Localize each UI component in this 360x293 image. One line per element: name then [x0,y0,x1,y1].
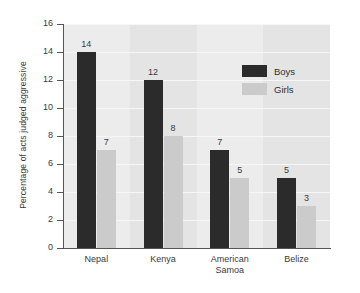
bar-girls-american-samoa [230,178,249,248]
legend-item-boys[interactable]: Boys [242,62,295,80]
y-axis-tick [57,80,63,81]
y-axis-tick [57,164,63,165]
y-axis-tick [57,24,63,25]
y-axis-tick [57,192,63,193]
y-axis-tick-label: 6 [13,158,53,168]
y-axis-tick-label: 2 [13,214,53,224]
y-axis-tick [57,136,63,137]
bar-chart: Percentage of acts judged aggressive 161… [0,0,360,293]
legend-swatch-girls-icon [242,83,267,95]
category-label-line: Belize [252,254,342,265]
plot-area [63,24,330,248]
x-axis-line [63,248,331,249]
bar-girls-belize [297,206,316,248]
y-axis-tick [57,108,63,109]
y-axis-tick-label: 12 [13,74,53,84]
y-axis-tick-label: 16 [13,18,53,28]
category-label-line: Samoa [185,265,275,276]
gridline [63,52,330,53]
bar-value-label: 5 [272,165,302,175]
y-axis-tick-label: 14 [13,46,53,56]
legend-item-girls[interactable]: Girls [242,80,295,98]
y-axis-tick [57,220,63,221]
bar-value-label: 7 [205,137,235,147]
y-axis-tick-label: 10 [13,102,53,112]
y-axis-tick [57,248,63,249]
bar-value-label: 8 [158,123,188,133]
bar-boys-belize [277,178,296,248]
y-axis-tick-label: 4 [13,186,53,196]
bar-girls-nepal [97,150,116,248]
bar-value-label: 14 [71,39,101,49]
bar-boys-nepal [77,52,96,248]
y-axis-tick [57,52,63,53]
legend-label-girls: Girls [274,84,294,95]
legend-label-boys: Boys [274,66,295,77]
legend: Boys Girls [242,62,295,98]
gridline [63,24,330,25]
y-axis-tick-label: 8 [13,130,53,140]
bar-boys-kenya [144,80,163,248]
bar-value-label: 7 [91,137,121,147]
x-axis-category-label: Belize [252,254,342,265]
bar-girls-kenya [164,136,183,248]
y-axis-tick-label: 0 [13,242,53,252]
legend-swatch-boys-icon [242,65,267,77]
gridline [63,108,330,109]
bar-value-label: 3 [292,193,322,203]
bar-value-label: 12 [138,67,168,77]
bar-value-label: 5 [225,165,255,175]
y-axis-line [63,24,64,249]
